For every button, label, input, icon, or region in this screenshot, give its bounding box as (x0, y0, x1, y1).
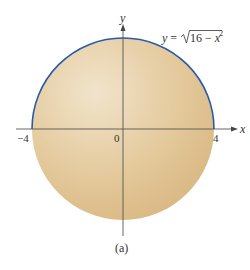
y-axis-arrow-icon (121, 24, 126, 31)
x-axis-label: x (239, 122, 246, 136)
x-tick-neg4: −4 (17, 132, 29, 144)
x-tick-4: 4 (213, 132, 219, 144)
y-axis-label: y (119, 11, 126, 25)
figure-caption: (a) (115, 241, 128, 255)
origin-label: 0 (114, 132, 120, 144)
x-axis-arrow-icon (231, 127, 238, 132)
svg-text:y =: y = (161, 31, 177, 45)
svg-text:16 − x: 16 − x (190, 31, 221, 45)
figure: y x 0 −4 4 y = 16 − x 2 (a) (0, 0, 250, 270)
equation-label: y = 16 − x 2 (161, 29, 223, 45)
svg-text:2: 2 (219, 29, 223, 38)
